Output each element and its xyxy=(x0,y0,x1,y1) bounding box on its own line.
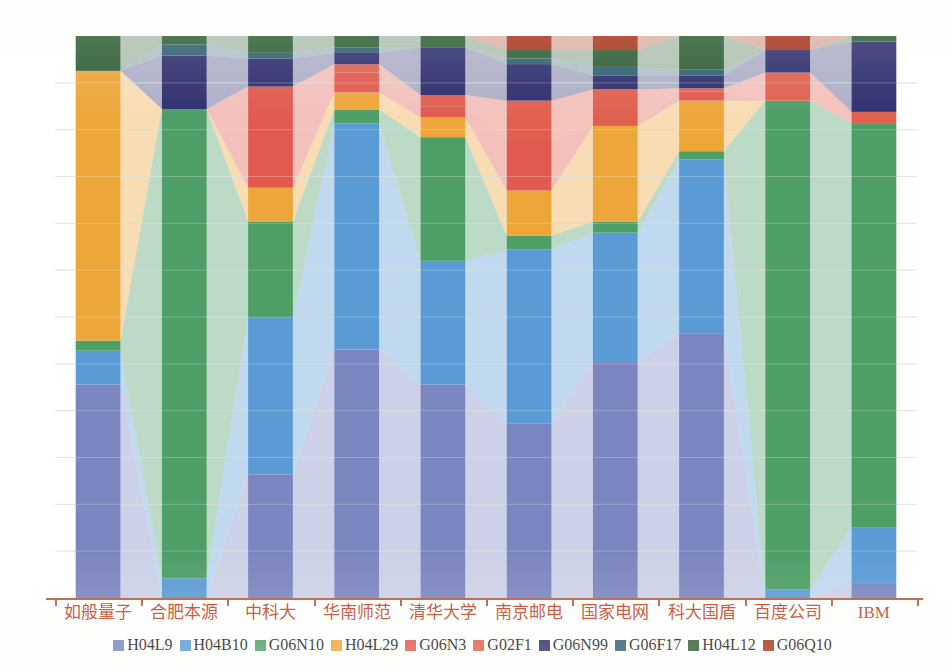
bar-segment-h04l29[interactable] xyxy=(248,188,293,222)
bar-segment-g06n10[interactable] xyxy=(334,109,379,123)
bar-segment-h04b10[interactable] xyxy=(765,590,810,598)
bar-segment-g06n99[interactable] xyxy=(593,75,638,89)
bar-segment-g06n3[interactable] xyxy=(507,140,552,191)
bar-segment-h04l9[interactable] xyxy=(851,584,896,598)
ribbon-g06q10 xyxy=(552,36,593,50)
legend-label: G06N99 xyxy=(553,636,608,654)
legend-label: G06N10 xyxy=(269,636,324,654)
bar-segment-g06f17[interactable] xyxy=(248,53,293,59)
legend-item-g06q10[interactable]: G06Q10 xyxy=(763,636,832,654)
bar-segment-g02f1[interactable] xyxy=(679,88,724,91)
bar-segment-h04l29[interactable] xyxy=(420,117,465,137)
bar-segment-g06n99[interactable] xyxy=(679,75,724,88)
bar-segment-g06n99[interactable] xyxy=(851,42,896,112)
bar-segment-g06f17[interactable] xyxy=(593,67,638,75)
bar-segment-h04l12[interactable] xyxy=(420,36,465,47)
bar-segment-g06n10[interactable] xyxy=(76,341,121,351)
bar-segment-h04l9[interactable] xyxy=(593,362,638,598)
bar-segment-h04b10[interactable] xyxy=(851,528,896,584)
legend-swatch-icon xyxy=(473,640,484,651)
legend-swatch-icon xyxy=(615,640,626,651)
legend-item-g06n10[interactable]: G06N10 xyxy=(255,636,324,654)
legend-label: H04B10 xyxy=(194,636,248,654)
bar-segment-g06f17[interactable] xyxy=(162,44,207,55)
bar-segment-g06f17[interactable] xyxy=(334,47,379,53)
bar-segment-g06n99[interactable] xyxy=(162,56,207,109)
bar-segment-h04l29[interactable] xyxy=(334,92,379,109)
bar-segment-g06n99[interactable] xyxy=(765,50,810,72)
bar-segment-h04b10[interactable] xyxy=(334,124,379,350)
bar-segment-g02f1[interactable] xyxy=(851,112,896,123)
bar-segment-h04l12[interactable] xyxy=(593,50,638,67)
legend-item-h04l12[interactable]: H04L12 xyxy=(688,636,755,654)
bar-segment-h04b10[interactable] xyxy=(420,261,465,385)
legend-swatch-icon xyxy=(331,640,342,651)
bar-segment-h04l9[interactable] xyxy=(76,384,121,598)
bar-segment-g06n3[interactable] xyxy=(248,87,293,188)
legend-label: H04L9 xyxy=(127,636,172,654)
bar-segment-h04b10[interactable] xyxy=(248,317,293,474)
category-label: IBM xyxy=(819,600,929,626)
legend-label: G02F1 xyxy=(487,636,531,654)
legend-swatch-icon xyxy=(405,640,416,651)
bar-segment-h04l29[interactable] xyxy=(76,71,121,341)
legend-swatch-icon xyxy=(180,640,191,651)
bar-segment-g06n99[interactable] xyxy=(507,64,552,101)
bar-segment-h04l12[interactable] xyxy=(76,36,121,71)
bar-segment-g06n10[interactable] xyxy=(507,236,552,250)
bar-segment-g06n10[interactable] xyxy=(851,123,896,528)
legend-item-g06n99[interactable]: G06N99 xyxy=(539,636,608,654)
bar-segment-h04l9[interactable] xyxy=(420,384,465,598)
bar-segment-h04l12[interactable] xyxy=(507,50,552,58)
bar-segment-g06q10[interactable] xyxy=(765,36,810,50)
bar-segment-g06q10[interactable] xyxy=(507,36,552,50)
bar-segment-g06n99[interactable] xyxy=(248,58,293,86)
stacked-bar-svg xyxy=(55,36,917,598)
bar-segment-h04b10[interactable] xyxy=(76,351,121,385)
bar-segment-g06n10[interactable] xyxy=(420,137,465,261)
legend-item-h04b10[interactable]: H04B10 xyxy=(180,636,248,654)
bar-segment-g06f17[interactable] xyxy=(507,58,552,64)
bar-segment-h04l12[interactable] xyxy=(851,36,896,42)
legend-item-h04l29[interactable]: H04L29 xyxy=(331,636,398,654)
bar-segment-g02f1[interactable] xyxy=(593,89,638,126)
bar-segment-h04l12[interactable] xyxy=(248,36,293,53)
legend-swatch-icon xyxy=(539,640,550,651)
bar-segment-g02f1[interactable] xyxy=(765,73,810,101)
bar-segment-g06n10[interactable] xyxy=(162,109,207,578)
bar-segment-h04l12[interactable] xyxy=(679,36,724,70)
bar-segment-h04l12[interactable] xyxy=(334,36,379,47)
bar-segment-g06n3[interactable] xyxy=(420,106,465,117)
bar-segment-h04l29[interactable] xyxy=(679,101,724,152)
legend-item-g06n3[interactable]: G06N3 xyxy=(405,636,466,654)
bar-segment-h04b10[interactable] xyxy=(507,250,552,424)
bar-segment-g06n99[interactable] xyxy=(420,47,465,95)
bar-segment-g06n3[interactable] xyxy=(679,92,724,101)
bar-segment-g02f1[interactable] xyxy=(334,64,379,72)
legend-item-g02f1[interactable]: G02F1 xyxy=(473,636,531,654)
legend-item-h04l9[interactable]: H04L9 xyxy=(113,636,172,654)
bar-segment-g06n10[interactable] xyxy=(248,221,293,317)
bar-segment-g06n10[interactable] xyxy=(679,151,724,159)
bar-segment-h04l29[interactable] xyxy=(593,126,638,222)
bar-segment-g02f1[interactable] xyxy=(420,95,465,106)
legend-item-g06f17[interactable]: G06F17 xyxy=(615,636,681,654)
bar-segment-g02f1[interactable] xyxy=(507,101,552,140)
bar-segment-h04l12[interactable] xyxy=(162,36,207,44)
bar-segment-h04l29[interactable] xyxy=(507,191,552,236)
bar-segment-h04b10[interactable] xyxy=(679,160,724,334)
bar-segment-g06q10[interactable] xyxy=(593,36,638,50)
legend-label: H04L12 xyxy=(702,636,755,654)
bar-segment-h04l9[interactable] xyxy=(248,474,293,598)
bar-segment-h04l9[interactable] xyxy=(507,424,552,598)
bar-segment-h04b10[interactable] xyxy=(593,233,638,362)
legend-swatch-icon xyxy=(688,640,699,651)
bar-segment-h04b10[interactable] xyxy=(162,578,207,598)
bar-segment-g06n99[interactable] xyxy=(334,53,379,64)
bar-segment-g06n10[interactable] xyxy=(765,101,810,590)
bar-segment-g06f17[interactable] xyxy=(679,70,724,76)
ribbon-g06n10 xyxy=(810,101,851,590)
bar-segment-h04l9[interactable] xyxy=(334,349,379,598)
legend-label: G06N3 xyxy=(419,636,466,654)
bar-segment-h04l9[interactable] xyxy=(679,334,724,598)
